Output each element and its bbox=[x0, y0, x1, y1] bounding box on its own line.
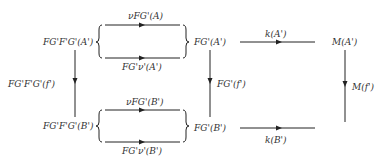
bottom-parallel-arrows bbox=[96, 108, 189, 145]
node-fg-b: FG'(B') bbox=[194, 123, 226, 133]
label-bot-lower: FG'ν'(B') bbox=[122, 146, 162, 156]
node-m-a: M(A') bbox=[332, 37, 357, 47]
node-fg-a: FG'(A') bbox=[194, 37, 226, 47]
node-fgfg-b: FG'F'G'(B') bbox=[43, 121, 93, 131]
label-top-lower: FG'ν'(A') bbox=[122, 62, 162, 72]
arrow-k-a bbox=[240, 40, 315, 45]
label-left-vertical: FG'F'G'(f') bbox=[8, 79, 55, 89]
label-top-upper: νFG'(A) bbox=[128, 11, 163, 21]
diagram-canvas bbox=[0, 0, 392, 167]
arrow-k-b bbox=[240, 126, 315, 131]
arrow-right-vertical bbox=[343, 50, 348, 122]
arrow-mid-vertical bbox=[208, 50, 213, 117]
label-k-b: k(B') bbox=[265, 135, 287, 145]
label-right-vertical: M(f') bbox=[352, 82, 374, 92]
top-parallel-arrows bbox=[96, 23, 189, 61]
label-mid-vertical: FG'(f') bbox=[217, 79, 246, 89]
label-k-a: k(A') bbox=[265, 29, 286, 39]
node-fgfg-a: FG'F'G'(A') bbox=[43, 37, 93, 47]
label-bot-upper: νFG'(B') bbox=[126, 97, 164, 107]
arrow-left-vertical bbox=[73, 50, 78, 117]
